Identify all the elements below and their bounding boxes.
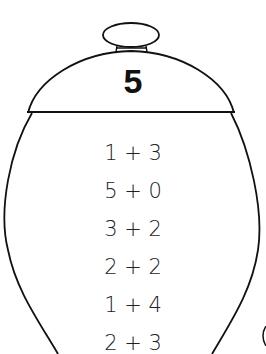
expression-item: 3 + 2 [0,210,266,248]
expression-list: 1 + 3 5 + 0 3 + 2 2 + 2 1 + 4 2 + 3 [0,134,266,354]
target-number: 5 [0,61,266,101]
expression-item: 2 + 2 [0,248,266,286]
expression-item: 1 + 4 [0,286,266,324]
partial-edge-glyph [262,326,266,346]
expression-item: 5 + 0 [0,172,266,210]
expression-item: 2 + 3 [0,324,266,354]
expression-item: 1 + 3 [0,134,266,172]
lid-knob [103,23,159,47]
